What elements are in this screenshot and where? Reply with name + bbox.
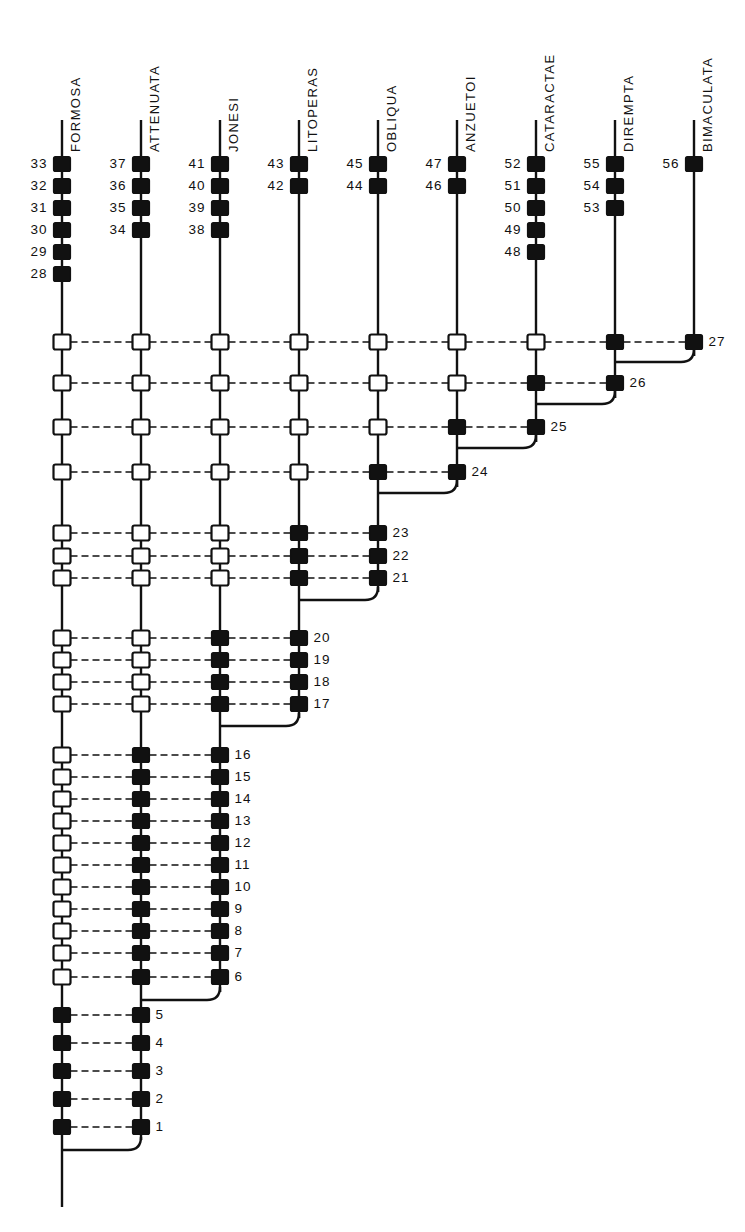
character-number-31: 31 [20,200,48,215]
character-number-38: 38 [178,222,206,237]
character-box-primitive [133,697,150,712]
character-box-primitive [54,465,71,480]
character-box-primitive [528,335,545,350]
character-number-35: 35 [99,200,127,215]
character-number-28: 28 [20,266,48,281]
character-box-derived [212,814,229,829]
character-box-primitive [133,420,150,435]
character-box-primitive [370,335,387,350]
character-box-derived [54,1064,71,1079]
join-bimaculata-dirempta [615,349,694,362]
character-box-primitive [54,653,71,668]
character-box-derived [370,157,387,172]
character-box-primitive [54,924,71,939]
character-box-derived [133,748,150,763]
character-number-23: 23 [393,525,410,540]
character-box-derived [449,157,466,172]
character-box-primitive [291,335,308,350]
character-box-derived [212,201,229,216]
character-box-primitive [54,420,71,435]
character-box-derived [291,631,308,646]
character-box-derived [686,157,703,172]
character-number-24: 24 [472,464,489,479]
character-box-derived [607,376,624,391]
character-number-49: 49 [494,222,522,237]
character-box-derived [291,549,308,564]
character-box-primitive [54,335,71,350]
character-box-derived [212,880,229,895]
character-box-derived [54,157,71,172]
character-box-derived [528,420,545,435]
character-box-primitive [133,675,150,690]
character-number-54: 54 [573,178,601,193]
taxon-label-cataractae: CATARACTAE [542,53,557,152]
character-box-primitive [133,465,150,480]
character-number-48: 48 [494,244,522,259]
character-number-40: 40 [178,178,206,193]
character-box-derived [370,526,387,541]
character-box-derived [291,653,308,668]
taxon-label-jonesi: JONESI [226,97,241,152]
character-box-derived [607,201,624,216]
character-box-primitive [133,549,150,564]
character-box-derived [370,179,387,194]
character-number-13: 13 [235,813,252,828]
character-box-derived [607,157,624,172]
character-box-derived [528,179,545,194]
character-number-19: 19 [314,652,331,667]
taxon-label-bimaculata: BIMACULATA [700,57,715,152]
character-box-derived [291,697,308,712]
join-anzuetoi-obliqua [378,480,457,493]
character-box-derived [291,571,308,586]
character-box-primitive [212,335,229,350]
character-box-derived [528,223,545,238]
character-box-primitive [449,376,466,391]
character-box-primitive [54,675,71,690]
character-box-derived [133,223,150,238]
character-box-primitive [54,792,71,807]
character-box-derived [133,858,150,873]
character-number-39: 39 [178,200,206,215]
character-number-30: 30 [20,222,48,237]
character-box-derived [54,1008,71,1023]
character-box-primitive [54,970,71,985]
character-box-primitive [54,571,71,586]
character-number-14: 14 [235,791,252,806]
character-box-derived [133,1064,150,1079]
character-number-45: 45 [336,156,364,171]
character-box-primitive [54,902,71,917]
character-box-derived [212,946,229,961]
character-number-16: 16 [235,747,252,762]
join-obliqua-litoperas [299,587,378,600]
character-number-22: 22 [393,548,410,563]
character-number-29: 29 [20,244,48,259]
character-number-53: 53 [573,200,601,215]
character-box-primitive [212,420,229,435]
character-number-37: 37 [99,156,127,171]
character-box-derived [133,1120,150,1135]
character-number-21: 21 [393,570,410,585]
character-number-3: 3 [156,1063,165,1078]
taxon-label-dirempta: DIREMPTA [621,75,636,152]
character-box-primitive [370,420,387,435]
cladogram-figure: 3332313029283736353441403938434245444746… [0,0,745,1232]
character-box-derived [54,223,71,238]
join-dirempta-cataractae [536,391,615,404]
character-number-27: 27 [709,334,726,349]
character-box-derived [133,770,150,785]
character-number-11: 11 [235,857,251,872]
taxon-label-anzuetoi: ANZUETOI [463,75,478,152]
character-number-41: 41 [178,156,206,171]
taxon-label-litoperas: LITOPERAS [305,67,320,152]
character-box-primitive [370,376,387,391]
character-number-47: 47 [415,156,443,171]
character-box-derived [54,267,71,282]
join-attenuata-formosa [62,1137,141,1150]
character-box-derived [212,836,229,851]
character-box-primitive [449,335,466,350]
character-number-56: 56 [652,156,680,171]
character-box-primitive [54,814,71,829]
character-box-primitive [291,420,308,435]
taxon-label-formosa: FORMOSA [68,76,83,152]
character-box-derived [370,549,387,564]
